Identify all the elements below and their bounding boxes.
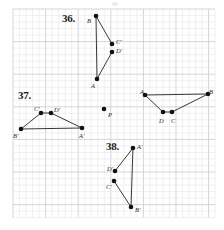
figure-38 — [112, 146, 136, 210]
vertex-C — [170, 110, 175, 115]
point-label-figure-37-A-prime: A' — [79, 133, 84, 140]
point-label-figure-original-abcd-C: C — [171, 118, 175, 125]
point-label-figure-36-A: A — [91, 83, 95, 90]
segment-A-B — [145, 94, 208, 95]
problem-number-37: 37. — [18, 89, 31, 101]
segment-A'-B' — [131, 148, 133, 207]
segment-D'-A' — [51, 113, 82, 128]
point-label-figure-38-C-prime: C' — [106, 184, 112, 191]
vertex-C-prime — [112, 179, 117, 184]
point-label-figure-38-B-prime: B' — [135, 207, 140, 214]
figure-37 — [19, 111, 85, 132]
point-label-figure-38-A-prime: A' — [137, 144, 142, 151]
vertex-A-prime — [131, 146, 136, 151]
segment-B-C' — [96, 16, 112, 44]
vertex-B-prime — [129, 205, 134, 210]
point-label-figure-38-D-prime: D' — [107, 166, 113, 173]
rotation-center-P — [102, 107, 107, 112]
figure-36 — [94, 14, 115, 82]
segment-B'-A' — [21, 128, 82, 129]
vertex-B — [94, 14, 99, 19]
figure-original-abcd — [143, 92, 211, 115]
segment-D'-A — [97, 52, 112, 79]
point-label-figure-36-D-prime: D' — [116, 48, 122, 55]
vertex-D-prime — [49, 111, 54, 116]
top-smudge — [112, 2, 118, 6]
point-label-figure-original-abcd-D: D — [159, 118, 164, 125]
segment-C'-B' — [114, 181, 131, 207]
vertex-A-prime — [80, 126, 85, 131]
point-label-figure-37-D-prime: D' — [54, 107, 60, 114]
point-label-figure-original-abcd-B: B — [209, 89, 213, 96]
segment-A-D — [145, 95, 163, 112]
vertex-D-prime — [113, 169, 118, 174]
point-label-P: P — [108, 112, 112, 119]
problem-number-38: 38. — [106, 140, 119, 152]
vertex-A — [95, 77, 100, 82]
vertex-B-prime — [19, 127, 24, 132]
point-label-figure-original-abcd-A: A — [140, 89, 144, 96]
worksheet-page: 36.37.38.BC'D'AC'D'B'A'ABDCA'D'C'B'P — [0, 0, 224, 230]
segment-B-A — [96, 16, 97, 79]
vertex-C-prime — [110, 42, 115, 47]
vertex-D-prime — [110, 50, 115, 55]
vertex-D — [161, 110, 166, 115]
point-label-figure-37-B-prime: B' — [13, 133, 18, 140]
segment-C'-B' — [21, 113, 41, 129]
geometry-figures — [0, 0, 224, 230]
point-label-figure-37-C-prime: C' — [34, 106, 40, 113]
problem-number-36: 36. — [62, 12, 75, 24]
segment-C-B — [172, 94, 208, 112]
point-label-figure-36-B: B — [87, 18, 91, 25]
point-label-figure-36-C-prime: C' — [116, 39, 122, 46]
